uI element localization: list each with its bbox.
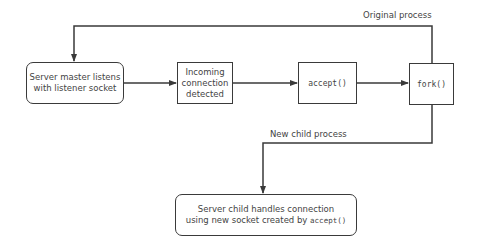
node-server-child: Server child handles connection using ne… (175, 194, 357, 236)
arrow-original-process (74, 26, 432, 63)
node-accept-label: accept() (308, 78, 347, 89)
node-server-child-line2: using new socket created by accept() (186, 215, 346, 226)
node-incoming-connection: Incoming connection detected (177, 62, 233, 104)
node-server-child-line2-code: accept() (310, 216, 346, 225)
node-server-child-line2-text: using new socket created by (186, 215, 310, 225)
node-fork: fork() (409, 63, 454, 105)
node-server-master-line2: with listener socket (30, 83, 121, 94)
edge-label-original-process: Original process (363, 10, 432, 20)
node-server-master: Server master listens with listener sock… (26, 62, 124, 104)
node-incoming-line1: Incoming (182, 67, 229, 78)
node-fork-label: fork() (417, 79, 446, 90)
node-accept: accept() (298, 62, 357, 104)
node-incoming-line2: connection (182, 78, 229, 89)
arrow-new-child-process (263, 105, 432, 193)
node-server-child-line1: Server child handles connection (186, 204, 346, 215)
node-incoming-line3: detected (182, 89, 229, 100)
node-server-master-line1: Server master listens (30, 72, 121, 83)
edge-label-new-child-process: New child process (270, 129, 347, 139)
